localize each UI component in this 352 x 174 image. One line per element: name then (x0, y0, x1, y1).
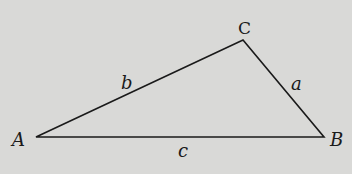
side-label-b: b (121, 72, 133, 93)
vertex-label-a: A (10, 129, 25, 150)
side-label-c: c (178, 140, 188, 161)
vertex-label-c: C (238, 18, 251, 38)
vertex-label-b: B (329, 129, 343, 150)
triangle-diagram: A B C b a c (0, 0, 352, 174)
side-label-a: a (291, 73, 302, 94)
triangle-svg: A B C b a c (0, 0, 352, 174)
triangle-abc (36, 40, 324, 137)
